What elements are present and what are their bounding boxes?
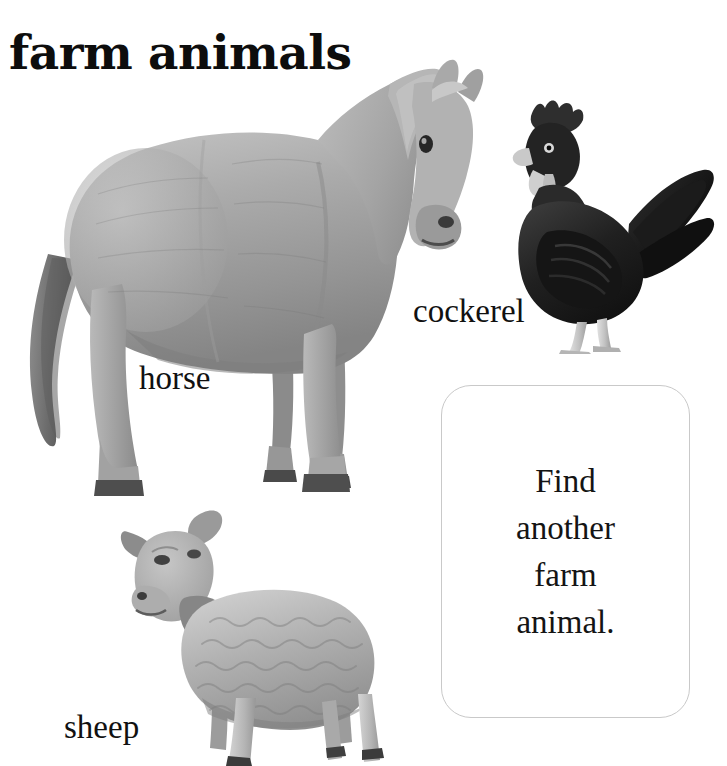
label-cockerel: cockerel [413, 294, 525, 328]
instruction-line-4: animal. [516, 599, 614, 646]
instruction-line-1: Find [535, 458, 596, 505]
instruction-line-2: another [516, 505, 615, 552]
sheep-photo [118, 502, 390, 766]
label-sheep: sheep [64, 710, 139, 744]
instruction-line-3: farm [534, 552, 596, 599]
worksheet-page: farm animals [0, 0, 727, 766]
horse-photo [18, 44, 492, 496]
cockerel-photo [503, 96, 719, 354]
instruction-card[interactable]: Find another farm animal. [441, 385, 690, 718]
label-horse: horse [139, 361, 210, 395]
